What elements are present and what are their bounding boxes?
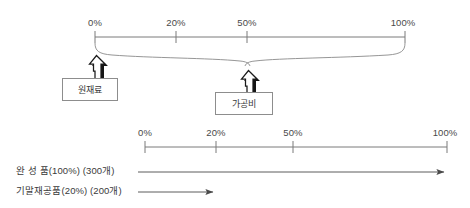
bottom-axis-tick-label-100: 100% <box>433 128 458 138</box>
bottom-axis-tick-label-0: 0% <box>138 128 152 138</box>
cost-box-raw-material-label: 원재료 <box>78 83 103 96</box>
bottom-axis-tick-label-20: 20% <box>206 128 225 138</box>
top-axis-tick-label-0: 0% <box>88 18 102 28</box>
top-axis-tick-label-100: 100% <box>391 18 416 28</box>
cost-box-conversion: 가공비 <box>215 92 273 115</box>
cost-box-conversion-label: 가공비 <box>232 97 257 110</box>
top-axis-group <box>95 31 405 43</box>
top-axis-tick-label-50: 50% <box>237 18 256 28</box>
bottom-axis-tick-label-50: 50% <box>283 128 302 138</box>
raw-material-brace <box>95 43 250 66</box>
top-axis-tick-label-20: 20% <box>166 18 185 28</box>
conversion-brace <box>245 43 405 66</box>
bottom-axis-group <box>145 141 447 153</box>
figure-canvas: 0% 20% 50% 100% 원재료 가공비 0% 20% 50% 100% … <box>0 0 470 208</box>
progress-row-label-ending-wip: 기말재공품(20%) (200개) <box>16 186 122 196</box>
cost-box-raw-material: 원재료 <box>62 78 118 101</box>
progress-row-label-finished-goods: 완 성 품(100%) (300개) <box>16 166 115 176</box>
